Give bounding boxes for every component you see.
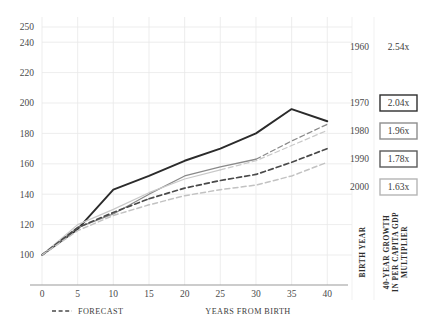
y-tick-label: 240 — [20, 38, 35, 48]
axis-titles: YEARS FROM BIRTH — [205, 307, 290, 316]
side-row-year-1990: 1990 — [350, 154, 369, 164]
vertical-label-growth-line-2: IN PER CAPITA GDP — [391, 212, 400, 292]
x-tick-label: 10 — [109, 289, 119, 299]
gdp-growth-line-chart: 100120140160180200220240250 051015202530… — [0, 0, 421, 321]
y-tick-label: 160 — [20, 159, 35, 169]
y-tick-label: 140 — [20, 190, 35, 200]
x-axis-tick-labels: 0510152025303540 — [40, 289, 333, 299]
vertical-label-growth-line-3: MULTIPLIER — [400, 226, 409, 278]
y-tick-label: 180 — [20, 129, 35, 139]
x-tick-label: 30 — [251, 289, 261, 299]
x-tick-label: 0 — [40, 289, 45, 299]
side-row-year-1960: 1960 — [350, 42, 369, 52]
side-row-year-1970: 1970 — [350, 98, 369, 108]
x-tick-label: 25 — [216, 289, 226, 299]
vertical-label-growth-line-1: 40-YEAR GROWTH — [382, 215, 391, 290]
x-axis-title: YEARS FROM BIRTH — [205, 307, 290, 316]
y-tick-label: 220 — [20, 68, 35, 78]
gridlines-group — [42, 17, 374, 300]
x-tick-label: 20 — [180, 289, 190, 299]
multiplier-value-1960: 2.54x — [388, 42, 410, 52]
chart-canvas: 100120140160180200220240250 051015202530… — [0, 0, 421, 321]
multiplier-value-1980: 1.96x — [388, 126, 410, 136]
side-panel-vertical-labels: BIRTH YEAR40-YEAR GROWTHIN PER CAPITA GD… — [358, 212, 409, 292]
x-tick-label: 5 — [75, 289, 80, 299]
side-panel-rows: 19602.54x19702.04x19801.96x19901.78x2000… — [350, 42, 417, 195]
side-row-year-2000: 2000 — [350, 182, 369, 192]
legend: FORECAST — [52, 307, 123, 316]
series-line-1990-actual — [42, 199, 149, 255]
legend-label-forecast: FORECAST — [78, 307, 123, 316]
y-tick-label: 120 — [20, 220, 35, 230]
multiplier-value-1970: 2.04x — [388, 98, 410, 108]
x-tick-label: 40 — [323, 289, 333, 299]
series-line-1990-forecast — [149, 149, 327, 199]
side-row-year-1980: 1980 — [350, 126, 369, 136]
y-tick-label: 200 — [20, 98, 35, 108]
multiplier-value-1990: 1.78x — [388, 154, 410, 164]
y-tick-label: 250 — [20, 22, 35, 32]
multiplier-value-2000: 1.63x — [388, 182, 410, 192]
vertical-label-birth-year: BIRTH YEAR — [358, 226, 367, 277]
y-axis-tick-labels: 100120140160180200220240250 — [20, 22, 35, 260]
y-tick-label: 100 — [20, 250, 35, 260]
x-tick-label: 15 — [144, 289, 154, 299]
x-tick-label: 35 — [287, 289, 297, 299]
